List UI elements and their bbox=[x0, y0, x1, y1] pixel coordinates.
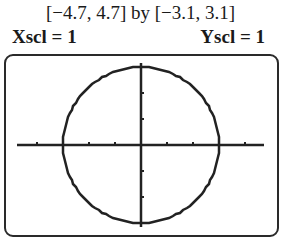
graph-plot bbox=[0, 0, 281, 242]
